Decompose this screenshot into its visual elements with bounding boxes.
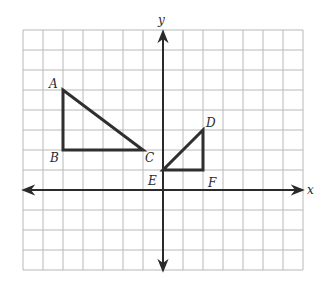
x-axis-label: x (307, 183, 314, 197)
vertex-label-c: C (145, 151, 154, 165)
y-axis-label: y (157, 13, 165, 27)
vertex-label-b: B (49, 151, 59, 165)
coordinate-plane-diagram: x y A B C D E F (0, 0, 329, 289)
vertex-label-d: D (205, 116, 216, 130)
vertex-label-a: A (48, 77, 58, 91)
vertex-label-e: E (147, 174, 157, 188)
vertex-label-f: F (207, 176, 217, 190)
